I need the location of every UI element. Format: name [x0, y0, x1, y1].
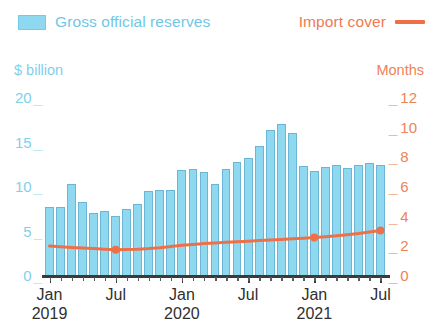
bar: [244, 158, 253, 275]
tick-dash-icon: _: [34, 222, 42, 239]
x-axis-minor-tick-mark: [336, 277, 338, 281]
x-axis-label: Jul: [370, 287, 390, 304]
x-axis-minor-tick-mark: [72, 277, 74, 281]
x-axis-minor-tick-mark: [292, 277, 294, 281]
x-axis-label-year: 2019: [32, 306, 68, 323]
x-axis-minor-tick-mark: [248, 277, 250, 281]
x-axis-minor-tick-mark: [358, 277, 360, 281]
chart-legend: Gross official reserves Import cover: [0, 0, 431, 42]
tick-dash-icon: _: [34, 89, 42, 106]
x-axis-minor-tick-mark: [138, 277, 140, 281]
bar: [78, 202, 87, 275]
x-axis-label: Jan2019: [32, 287, 68, 323]
x-axis-minor-tick-mark: [160, 277, 162, 281]
x-axis-minor-tick-mark: [237, 277, 239, 281]
legend-line-label: Import cover: [299, 13, 386, 31]
bar: [266, 130, 275, 275]
x-axis-minor-tick-mark: [270, 277, 272, 281]
bar: [211, 184, 220, 275]
bar: [321, 167, 330, 275]
legend-bar-swatch-icon: [18, 15, 46, 30]
bar: [144, 191, 153, 275]
tick-dash-icon: _: [389, 148, 397, 165]
tick-dash-icon: _: [389, 118, 397, 135]
tick-dash-icon: _: [389, 237, 397, 254]
tick-dash-icon: _: [389, 89, 397, 106]
tick-dash-icon: _: [389, 178, 397, 195]
x-axis-label-month: Jan: [164, 287, 200, 304]
bar: [343, 168, 352, 275]
x-axis-minor-tick-mark: [149, 277, 151, 281]
x-axis-label-year: 2021: [296, 306, 332, 323]
x-axis-minor-tick-mark: [259, 277, 261, 281]
x-axis-label-month: Jul: [370, 287, 390, 304]
left-axis-tick-label: 5_: [0, 222, 42, 239]
x-axis-minor-tick-mark: [127, 277, 129, 281]
tick-dash-icon: _: [34, 133, 42, 150]
x-axis-minor-tick-mark: [182, 277, 184, 281]
tick-dash-icon: _: [34, 178, 42, 195]
x-axis-label-month: Jul: [238, 287, 258, 304]
x-axis-minor-tick-mark: [94, 277, 96, 281]
x-axis-label: Jul: [238, 287, 258, 304]
x-axis-minor-tick-mark: [61, 277, 63, 281]
bar: [233, 162, 242, 275]
x-axis-label: Jan2021: [296, 287, 332, 323]
bar: [288, 133, 297, 275]
left-axis-tick-label: 20_: [0, 89, 42, 106]
x-axis-minor-tick-mark: [226, 277, 228, 281]
bar: [310, 171, 319, 275]
left-axis-tick-label: 0_: [0, 267, 42, 284]
left-axis-unit-label: $ billion: [14, 62, 63, 78]
bar-series-gross-official-reserves: [44, 97, 386, 275]
bar: [89, 213, 98, 275]
bar: [222, 169, 231, 275]
right-axis-tick-label: _12: [389, 89, 431, 106]
x-axis-minor-tick-mark: [193, 277, 195, 281]
bar: [354, 165, 363, 275]
x-axis-minor-tick-mark: [83, 277, 85, 281]
x-axis-minor-tick-mark: [204, 277, 206, 281]
tick-dash-icon: _: [389, 267, 397, 284]
left-axis-tick-label: 10_: [0, 178, 42, 195]
tick-dash-icon: _: [34, 267, 42, 284]
right-axis-tick-label: _6: [389, 178, 431, 195]
bar: [155, 190, 164, 275]
left-axis-tick-label: 15_: [0, 133, 42, 150]
x-axis-minor-tick-mark: [281, 277, 283, 281]
x-axis-tick-marks: [44, 277, 386, 285]
bar: [177, 170, 186, 275]
bar: [56, 207, 65, 275]
bar: [122, 209, 131, 275]
x-axis-minor-tick-mark: [380, 277, 382, 281]
x-axis-minor-tick-mark: [171, 277, 173, 281]
x-axis-minor-tick-mark: [303, 277, 305, 281]
x-axis-minor-tick-mark: [50, 277, 52, 281]
bar: [332, 165, 341, 275]
bar: [365, 163, 374, 275]
bar: [111, 216, 120, 275]
x-axis-minor-tick-mark: [325, 277, 327, 281]
x-axis-minor-tick-mark: [314, 277, 316, 281]
x-axis-minor-tick-mark: [347, 277, 349, 281]
x-axis-minor-tick-mark: [215, 277, 217, 281]
x-axis-minor-tick-mark: [116, 277, 118, 281]
x-axis-label-month: Jan: [296, 287, 332, 304]
bar: [100, 211, 109, 275]
bar: [277, 124, 286, 275]
x-axis-label-year: 2020: [164, 306, 200, 323]
legend-line-swatch-icon: [395, 20, 425, 24]
chart-figure: Gross official reserves Import cover $ b…: [0, 0, 431, 330]
bar: [166, 190, 175, 275]
bar: [133, 204, 142, 275]
bar: [67, 184, 76, 275]
x-axis-labels: Jan2019JulJan2020JulJan2021Jul: [44, 287, 386, 329]
right-axis-unit-label: Months: [376, 62, 424, 78]
x-axis-minor-tick-mark: [369, 277, 371, 281]
right-axis-tick-label: _2: [389, 237, 431, 254]
legend-bars-label: Gross official reserves: [55, 13, 210, 31]
x-axis-label: Jan2020: [164, 287, 200, 323]
x-axis-minor-tick-mark: [105, 277, 107, 281]
right-axis-tick-label: _10: [389, 118, 431, 135]
bar: [299, 166, 308, 275]
